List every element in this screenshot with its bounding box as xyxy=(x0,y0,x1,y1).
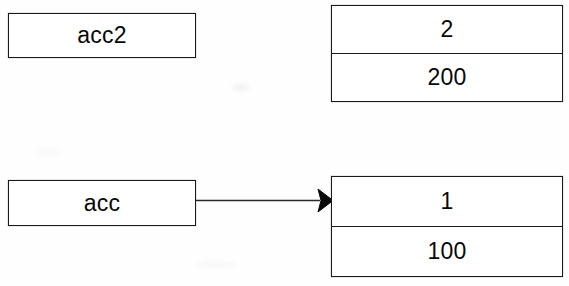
acc-label: acc xyxy=(9,181,195,225)
diagram-canvas: acc2 2 200 acc 1 100 xyxy=(0,0,569,286)
pointer-variable-acc2[interactable]: acc2 xyxy=(8,13,196,58)
scan-smudge xyxy=(196,262,236,267)
scan-smudge xyxy=(36,150,62,154)
pointer-variable-acc[interactable]: acc xyxy=(8,180,196,226)
object-box-1[interactable]: 1 100 xyxy=(331,176,563,277)
acc-to-object-1-connector xyxy=(190,186,340,216)
object-box-1-id-field: 1 xyxy=(332,177,562,227)
object-box-2-balance-field: 200 xyxy=(332,54,562,101)
object-box-2-id-field: 2 xyxy=(332,6,562,54)
arrow-icon xyxy=(190,186,340,216)
object-box-1-balance-field: 100 xyxy=(332,227,562,276)
scan-smudge xyxy=(232,84,250,91)
acc2-label: acc2 xyxy=(9,14,195,57)
object-box-2[interactable]: 2 200 xyxy=(331,5,563,102)
